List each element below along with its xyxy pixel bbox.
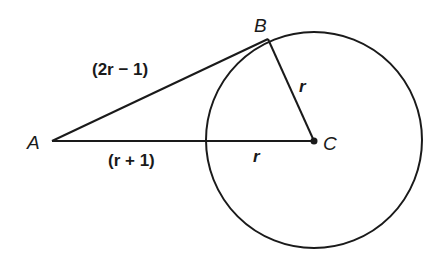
- label-point-c: C: [323, 133, 337, 154]
- label-segment-ac-outside: (r + 1): [108, 151, 155, 170]
- label-point-a: A: [26, 132, 40, 153]
- radius-bc: [268, 39, 314, 141]
- label-segment-ab: (2r − 1): [92, 60, 148, 79]
- label-point-b: B: [254, 15, 267, 36]
- label-segment-bc: r: [299, 77, 307, 96]
- label-segment-ac-inside: r: [253, 147, 261, 166]
- tangent-segment-ab: [52, 39, 268, 141]
- geometry-diagram: A B C (2r − 1) (r + 1) r r: [0, 0, 434, 271]
- center-point-c: [311, 138, 318, 145]
